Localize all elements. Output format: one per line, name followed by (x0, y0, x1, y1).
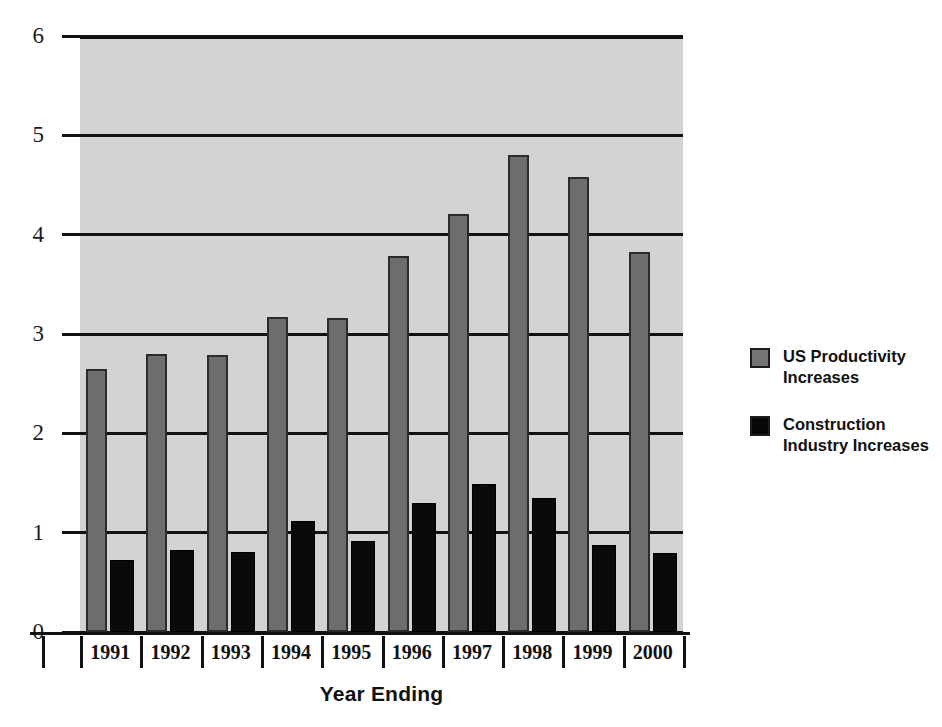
x-axis-tick-separator (502, 636, 505, 668)
x-axis-tick-separator (382, 636, 385, 668)
bar-construction-industry-1994 (291, 521, 315, 632)
y-axis-tick-mark (62, 233, 80, 236)
x-axis-tick-separator (80, 636, 83, 668)
legend-swatch-black-icon (750, 416, 770, 436)
x-axis-origin-tick (42, 636, 45, 668)
y-axis-tick-mark (62, 333, 80, 336)
bar-us-productivity-1997 (448, 214, 469, 632)
gridline (80, 333, 683, 336)
x-axis-tick-label-2000: 2000 (623, 638, 683, 666)
x-axis-tick-separator (321, 636, 324, 668)
legend-label-construction-industry: Construction Industry Increases (783, 414, 935, 456)
y-axis-tick-label: 2 (10, 421, 44, 444)
legend-item-us-productivity: US Productivity Increases (750, 346, 935, 388)
bar-us-productivity-1991 (86, 369, 107, 632)
gridline (80, 531, 683, 534)
y-axis-tick-label: 3 (10, 322, 44, 345)
bar-chart-figure: 0123456 19911992199319941995199619971998… (0, 0, 942, 727)
bar-construction-industry-1998 (532, 498, 556, 632)
x-axis-tick-separator (442, 636, 445, 668)
bar-construction-industry-1991 (110, 560, 134, 632)
legend-label-us-productivity: US Productivity Increases (783, 346, 935, 388)
x-axis-tick-labels: 1991199219931994199519961997199819992000 (0, 636, 942, 670)
x-axis-title: Year Ending (80, 682, 683, 706)
legend-item-construction-industry: Construction Industry Increases (750, 414, 935, 456)
bar-construction-industry-2000 (653, 553, 677, 632)
x-axis-tick-label-1992: 1992 (140, 638, 200, 666)
bar-us-productivity-1999 (568, 177, 589, 632)
y-axis-tick-mark (62, 432, 80, 435)
bar-construction-industry-1997 (472, 484, 496, 632)
x-axis-tick-separator (623, 636, 626, 668)
bar-construction-industry-1999 (592, 545, 616, 632)
x-axis-tick-label-1996: 1996 (382, 638, 442, 666)
bar-construction-industry-1992 (170, 550, 194, 632)
bar-us-productivity-1992 (146, 354, 167, 632)
y-axis-tick-label: 6 (10, 24, 44, 47)
y-axis-tick-mark (62, 531, 80, 534)
bar-us-productivity-1998 (508, 155, 529, 632)
bar-us-productivity-1993 (207, 355, 228, 632)
x-axis-tick-separator (683, 636, 686, 668)
plot-area (80, 36, 683, 632)
y-axis-tick-label: 4 (10, 223, 44, 246)
gridline (80, 35, 683, 39)
y-axis-tick-label: 5 (10, 123, 44, 146)
bar-us-productivity-1996 (388, 256, 409, 632)
x-axis-tick-separator (201, 636, 204, 668)
y-axis-tick-mark (62, 35, 80, 38)
bar-us-productivity-1994 (267, 317, 288, 632)
gridline (80, 134, 683, 137)
x-axis-tick-separator (562, 636, 565, 668)
bar-us-productivity-1995 (327, 318, 348, 632)
bar-construction-industry-1996 (412, 503, 436, 632)
chart-legend: US Productivity Increases Construction I… (750, 346, 935, 482)
y-axis-tick-mark (62, 134, 80, 137)
x-axis-tick-separator (140, 636, 143, 668)
x-axis-tick-label-1995: 1995 (321, 638, 381, 666)
x-axis-tick-label-1997: 1997 (442, 638, 502, 666)
x-axis-tick-label-1998: 1998 (502, 638, 562, 666)
x-axis-tick-separator (261, 636, 264, 668)
bar-construction-industry-1993 (231, 552, 255, 632)
y-axis-tick-label: 1 (10, 521, 44, 544)
bar-construction-industry-1995 (351, 541, 375, 632)
x-axis-tick-label-1994: 1994 (261, 638, 321, 666)
legend-swatch-gray-icon (750, 348, 770, 368)
x-axis-tick-label-1991: 1991 (80, 638, 140, 666)
x-axis-line (30, 632, 690, 635)
gridline (80, 233, 683, 236)
x-axis-tick-label-1993: 1993 (201, 638, 261, 666)
bar-us-productivity-2000 (629, 252, 650, 632)
gridline (80, 432, 683, 435)
x-axis-tick-label-1999: 1999 (562, 638, 622, 666)
